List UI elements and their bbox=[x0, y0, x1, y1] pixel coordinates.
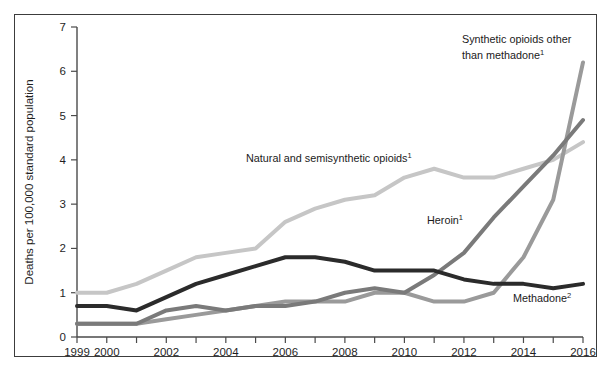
y-axis-tick-label: 6 bbox=[60, 65, 66, 77]
x-axis-tick-label: 2004 bbox=[213, 346, 239, 358]
x-axis-tick-label: 2006 bbox=[273, 346, 299, 358]
annotation-synthetic-other-than-methadone-line1: Synthetic opioids other bbox=[462, 33, 572, 45]
x-axis: 1999200020022004200620082010201220142016 bbox=[64, 337, 596, 358]
y-axis-tick-label: 0 bbox=[60, 331, 66, 343]
y-axis-tick-label: 1 bbox=[60, 287, 66, 299]
x-axis-tick-label: 2016 bbox=[570, 346, 596, 358]
y-axis-tick-label: 2 bbox=[60, 242, 66, 254]
line-chart-svg: 01234567 1999200020022004200620082010201… bbox=[0, 0, 613, 371]
x-axis-tick-label: 1999 bbox=[64, 346, 90, 358]
figure-root: 01234567 1999200020022004200620082010201… bbox=[0, 0, 613, 371]
x-axis-tick-label: 2012 bbox=[451, 346, 477, 358]
y-axis-tick-label: 5 bbox=[60, 110, 66, 122]
annotation-natural-semisynthetic: Natural and semisynthetic opioids1 bbox=[246, 151, 412, 164]
x-axis-tick-label: 2008 bbox=[332, 346, 358, 358]
y-axis-title: Deaths per 100,000 standard population bbox=[23, 79, 35, 284]
y-axis-tick-label: 4 bbox=[60, 154, 67, 166]
x-axis-tick-label: 2002 bbox=[153, 346, 179, 358]
x-axis-tick-label: 2014 bbox=[511, 346, 537, 358]
chart-plot-area: 01234567 1999200020022004200620082010201… bbox=[0, 0, 613, 371]
annotation-heroin: Heroin1 bbox=[427, 213, 463, 226]
data-series-group bbox=[77, 62, 583, 323]
x-axis-tick-label: 2000 bbox=[94, 346, 120, 358]
y-axis-tick-label: 7 bbox=[60, 21, 66, 33]
annotation-methadone: Methadone2 bbox=[513, 291, 571, 304]
annotation-synthetic-other-than-methadone-line2: than methadone1 bbox=[462, 48, 544, 61]
series-line-heroin bbox=[77, 120, 583, 324]
y-axis-tick-label: 3 bbox=[60, 198, 66, 210]
series-line-natural-and-semisynthetic-opioids bbox=[77, 142, 583, 293]
y-axis: 01234567 bbox=[60, 21, 77, 343]
x-axis-tick-label: 2010 bbox=[392, 346, 418, 358]
y-axis-title-text: Deaths per 100,000 standard population bbox=[23, 79, 35, 284]
